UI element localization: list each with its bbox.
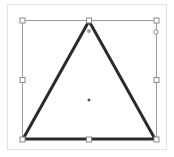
resize-handle-top-right[interactable] <box>154 18 159 23</box>
rotate-handle-icon[interactable] <box>154 30 158 34</box>
adjust-handle-icon[interactable] <box>87 29 91 33</box>
resize-handle-top-left[interactable] <box>20 18 25 23</box>
resize-handle-bottom-right[interactable] <box>154 137 159 142</box>
drawing-canvas <box>0 0 174 157</box>
resize-handle-middle-left[interactable] <box>20 78 25 83</box>
triangle-shape[interactable] <box>23 21 155 139</box>
resize-handle-middle-right[interactable] <box>154 78 159 83</box>
resize-handle-top-middle[interactable] <box>87 18 92 23</box>
resize-handle-bottom-left[interactable] <box>20 137 25 142</box>
center-point-icon <box>88 99 91 102</box>
resize-handle-bottom-middle[interactable] <box>87 137 92 142</box>
